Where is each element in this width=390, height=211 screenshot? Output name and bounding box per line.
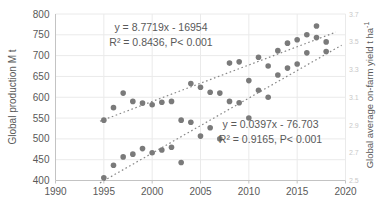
data-point <box>275 48 281 54</box>
left-axis-title: Global production M t <box>7 49 18 144</box>
data-point <box>246 78 252 84</box>
data-point <box>285 40 291 46</box>
data-point <box>227 60 233 66</box>
right-axis-tick-label: 2.7 <box>349 149 359 156</box>
data-point <box>111 105 117 111</box>
data-point <box>111 162 117 168</box>
data-point <box>198 84 204 90</box>
data-point <box>304 32 310 38</box>
data-point <box>130 99 136 105</box>
data-point <box>265 63 271 69</box>
x-axis-tick-label: 2020 <box>334 186 357 197</box>
data-point <box>130 151 136 157</box>
right-axis-tick-label: 3.5 <box>349 38 359 45</box>
right-axis-tick-label: 3.7 <box>349 11 359 18</box>
data-point <box>159 99 165 105</box>
data-point <box>149 150 155 156</box>
left-axis-tick-label: 700 <box>33 50 50 61</box>
production-trendline-equation: y = 8.7719x - 16954 R² = 0.8436, P< 0.00… <box>76 20 246 49</box>
data-point <box>217 90 223 96</box>
right-axis-title: Global average on-farm yield t ha-1 <box>363 22 375 169</box>
data-point <box>304 50 310 56</box>
x-axis-tick-label: 2015 <box>286 186 309 197</box>
scatter-chart: 4004505005506006507007508001990199520002… <box>0 0 390 211</box>
right-axis-tick-label: 2.5 <box>349 177 359 184</box>
left-axis-tick-label: 800 <box>33 9 50 20</box>
data-point <box>140 146 146 152</box>
data-point <box>256 88 262 94</box>
data-point <box>120 90 126 96</box>
data-point <box>314 35 320 41</box>
trendline <box>100 45 342 183</box>
data-point <box>236 59 242 65</box>
left-axis-tick-label: 600 <box>33 92 50 103</box>
data-point <box>236 100 242 106</box>
left-axis-tick-label: 500 <box>33 133 50 144</box>
data-point <box>169 144 175 150</box>
data-point <box>265 94 271 100</box>
production-rsquared-line: R² = 0.8436, P< 0.001 <box>76 35 246 50</box>
data-point <box>275 72 281 78</box>
x-axis-tick-label: 2000 <box>141 186 164 197</box>
data-point <box>101 175 107 181</box>
left-axis-tick-label: 650 <box>33 71 50 82</box>
x-axis-tick-label: 1995 <box>93 186 116 197</box>
left-axis-tick-label: 550 <box>33 113 50 124</box>
data-point <box>149 102 155 108</box>
data-point <box>314 23 320 29</box>
data-point <box>227 99 233 105</box>
x-axis-tick-label: 1990 <box>44 186 67 197</box>
yield-trendline-equation: y = 0.0397x - 76.703 R² = 0.9165, P< 0.0… <box>188 117 353 146</box>
data-point <box>294 61 300 67</box>
data-point <box>140 100 146 106</box>
data-point <box>178 117 184 123</box>
x-axis-tick-label: 2005 <box>189 186 212 197</box>
data-point <box>207 89 213 95</box>
production-equation-line: y = 8.7719x - 16954 <box>76 20 246 35</box>
data-point <box>323 39 329 45</box>
data-point <box>101 117 107 123</box>
yield-rsquared-line: R² = 0.9165, P< 0.001 <box>188 132 353 147</box>
data-point <box>188 81 194 87</box>
left-axis-tick-label: 450 <box>33 154 50 165</box>
right-axis-tick-label: 3.3 <box>349 66 359 73</box>
data-point <box>169 99 175 105</box>
data-point <box>178 160 184 166</box>
left-axis-tick-label: 750 <box>33 29 50 40</box>
data-point <box>256 54 262 60</box>
left-axis-tick-label: 400 <box>33 175 50 186</box>
data-point <box>285 65 291 71</box>
data-point <box>159 147 165 153</box>
x-axis-tick-label: 2010 <box>238 186 261 197</box>
yield-equation-line: y = 0.0397x - 76.703 <box>188 117 353 132</box>
data-point <box>120 154 126 160</box>
right-axis-tick-label: 3.1 <box>349 94 359 101</box>
data-point <box>294 37 300 43</box>
right-axis-title-text: Global average on-farm yield t ha <box>364 28 375 168</box>
right-axis-title-superscript: -1 <box>363 22 370 28</box>
data-point <box>323 49 329 55</box>
